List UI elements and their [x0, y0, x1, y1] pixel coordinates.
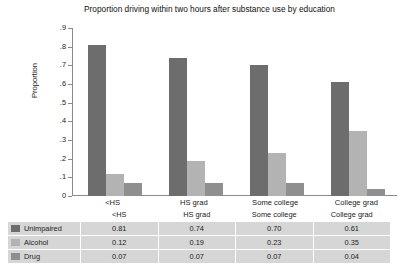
- plot-area: 0.1.2.3.4.5.6.7.8.9: [72, 28, 397, 196]
- bar: [187, 161, 205, 196]
- table-body: Unimpaired0.810.740.700.61Alcohol0.120.1…: [8, 222, 390, 263]
- y-axis-line: [72, 28, 73, 196]
- table-row: Alcohol0.120.190.230.35: [8, 236, 390, 249]
- x-axis-category-label: College grad: [316, 198, 397, 207]
- y-tick-label: .7: [60, 60, 66, 69]
- table-cell-value: 0.61: [314, 222, 391, 235]
- y-tick-mark: [68, 196, 72, 197]
- table-cell-value: 0.23: [236, 236, 313, 249]
- table-header-cell: HS grad: [159, 208, 236, 221]
- y-tick-label: 0: [62, 191, 66, 200]
- legend-swatch-icon: [11, 253, 20, 260]
- y-tick-label: .3: [60, 135, 66, 144]
- table-cell-value: 0.04: [314, 250, 391, 263]
- table-header-cell: College grad: [314, 208, 391, 221]
- bar: [106, 174, 124, 196]
- legend-swatch-icon: [11, 225, 20, 232]
- table-cell-value: 0.07: [81, 250, 158, 263]
- bar: [367, 189, 385, 196]
- bar-group: [169, 28, 223, 196]
- y-tick-mark: [68, 65, 72, 66]
- y-tick-mark: [68, 28, 72, 29]
- bar-group: [331, 28, 385, 196]
- y-axis-title: Proportion: [30, 63, 39, 98]
- legend-label: Drug: [24, 252, 40, 261]
- y-tick-label: .2: [60, 154, 66, 163]
- table-row: Drug0.070.070.070.04: [8, 250, 390, 263]
- bar-group: [88, 28, 142, 196]
- table-cell-value: 0.74: [159, 222, 236, 235]
- legend-entry: Unimpaired: [8, 222, 80, 235]
- y-tick-label: .1: [60, 172, 66, 181]
- chart-figure: Proportion driving within two hours afte…: [0, 0, 403, 273]
- legend-label: Unimpaired: [24, 224, 62, 233]
- y-tick-mark: [68, 47, 72, 48]
- bar: [169, 58, 187, 196]
- table-cell-value: 0.81: [81, 222, 158, 235]
- y-tick-mark: [68, 177, 72, 178]
- y-tick-mark: [68, 103, 72, 104]
- x-axis-category-label: Some college: [235, 198, 316, 207]
- table-cell-value: 0.35: [314, 236, 391, 249]
- table-cell-value: 0.07: [159, 250, 236, 263]
- legend-entry: Drug: [8, 250, 80, 263]
- bar: [205, 183, 223, 196]
- table-row: Unimpaired0.810.740.700.61: [8, 222, 390, 235]
- bar: [331, 82, 349, 196]
- bar: [88, 45, 106, 196]
- y-tick-mark: [68, 84, 72, 85]
- y-tick-label: .6: [60, 79, 66, 88]
- x-axis-category-label: HS grad: [153, 198, 234, 207]
- legend-label: Alcohol: [24, 238, 48, 247]
- table-header-row: <HSHS gradSome collegeCollege grad: [8, 208, 390, 221]
- legend-swatch-icon: [11, 239, 20, 246]
- table-corner-cell: [8, 208, 80, 221]
- y-tick-mark: [68, 121, 72, 122]
- data-table: <HSHS gradSome collegeCollege grad Unimp…: [8, 208, 390, 263]
- bar: [286, 183, 304, 196]
- bar: [250, 65, 268, 196]
- y-tick-label: .8: [60, 42, 66, 51]
- chart-title: Proportion driving within two hours afte…: [84, 4, 396, 15]
- y-tick-label: .4: [60, 116, 66, 125]
- x-axis-category-label: <HS: [72, 198, 153, 207]
- bar: [268, 153, 286, 196]
- bar-group: [250, 28, 304, 196]
- table-cell-value: 0.70: [236, 222, 313, 235]
- y-tick-label: .5: [60, 98, 66, 107]
- table-header-cell: <HS: [81, 208, 158, 221]
- table-cell-value: 0.07: [236, 250, 313, 263]
- table-header-cell: Some college: [236, 208, 313, 221]
- y-tick-label: .9: [60, 23, 66, 32]
- legend-entry: Alcohol: [8, 236, 80, 249]
- y-tick-mark: [68, 159, 72, 160]
- table-cell-value: 0.19: [159, 236, 236, 249]
- bar: [349, 131, 367, 196]
- table-cell-value: 0.12: [81, 236, 158, 249]
- bar: [124, 183, 142, 196]
- y-tick-mark: [68, 140, 72, 141]
